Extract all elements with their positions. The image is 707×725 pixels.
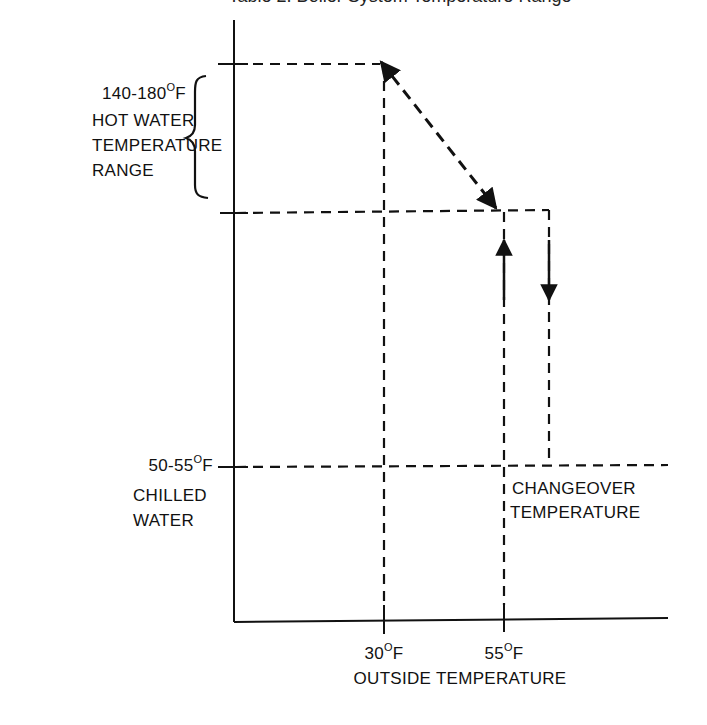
x-tick-30f: 30OF bbox=[354, 644, 414, 665]
hot-water-unit: F bbox=[175, 84, 186, 103]
x-axis bbox=[234, 618, 668, 622]
x-axis-title: OUTSIDE TEMPERATURE bbox=[330, 669, 590, 689]
hot-water-range-value: 140-180 bbox=[102, 84, 167, 103]
changeover-label: CHANGEOVER bbox=[512, 479, 636, 499]
changeover-temperature-label: TEMPERATURE bbox=[510, 503, 641, 523]
chilled-water-range-label: 50-55OF bbox=[110, 456, 213, 477]
hvac-reset-diagram bbox=[0, 0, 707, 725]
dashed-guides bbox=[236, 64, 668, 605]
reset-slope-arrow bbox=[381, 62, 496, 208]
x-tick-30-unit: F bbox=[393, 644, 404, 663]
hot-water-label: HOT WATER bbox=[92, 111, 195, 131]
x-tick-55-value: 55 bbox=[484, 644, 504, 663]
chilled-water-range-value: 50-55 bbox=[148, 456, 193, 475]
x-tick-55f: 55OF bbox=[474, 644, 534, 665]
x-tick-55-unit: F bbox=[513, 644, 524, 663]
chilled-label: CHILLED bbox=[133, 486, 207, 506]
range-label: RANGE bbox=[92, 161, 154, 181]
water-label: WATER bbox=[133, 511, 194, 531]
hot-water-range-label: 140-180OF bbox=[100, 84, 186, 105]
temperature-label: TEMPERATURE bbox=[92, 136, 223, 156]
axes bbox=[218, 20, 668, 634]
x-tick-30-value: 30 bbox=[364, 644, 384, 663]
chilled-water-unit: F bbox=[202, 456, 213, 475]
